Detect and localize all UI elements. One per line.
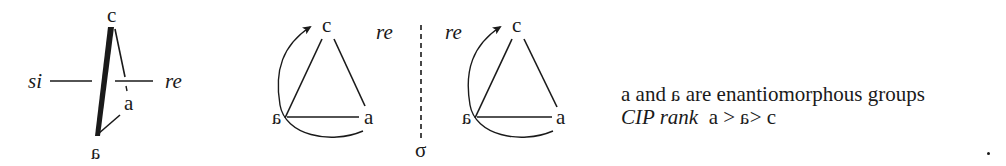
re-face-label: re [165, 71, 182, 92]
triangle-right-right-label: a [556, 107, 565, 128]
caption-line-1: a and a are enantiomorphous groups [621, 83, 925, 106]
mirror-sigma-label: σ [415, 140, 426, 161]
triangle-right [468, 27, 557, 137]
projection-front-label: a [124, 93, 133, 114]
cip-rank-label: CIP rank [621, 105, 698, 129]
triangle-right-left-label: a [462, 107, 471, 128]
projection-top-label: c [107, 5, 116, 26]
triangle-left-top-label: c [322, 15, 331, 36]
trailing-period [987, 152, 990, 155]
triangle-right-face-label: re [445, 22, 462, 43]
si-face-label: si [28, 71, 42, 92]
triangle-left-face-label: re [376, 22, 393, 43]
projection-bottom-label: a [91, 142, 100, 163]
triangle-left-left-label: a [272, 107, 281, 128]
wedge-bond [95, 27, 114, 136]
triangle-right-top-label: c [512, 15, 521, 36]
triangle-left [278, 27, 365, 137]
caption-line-2: CIP rank a > a> c [621, 106, 925, 129]
triangle-left-right-label: a [364, 107, 373, 128]
c-to-a-line [115, 29, 125, 77]
caption: a and a are enantiomorphous groups CIP r… [621, 83, 925, 129]
projection-figure [50, 27, 153, 136]
